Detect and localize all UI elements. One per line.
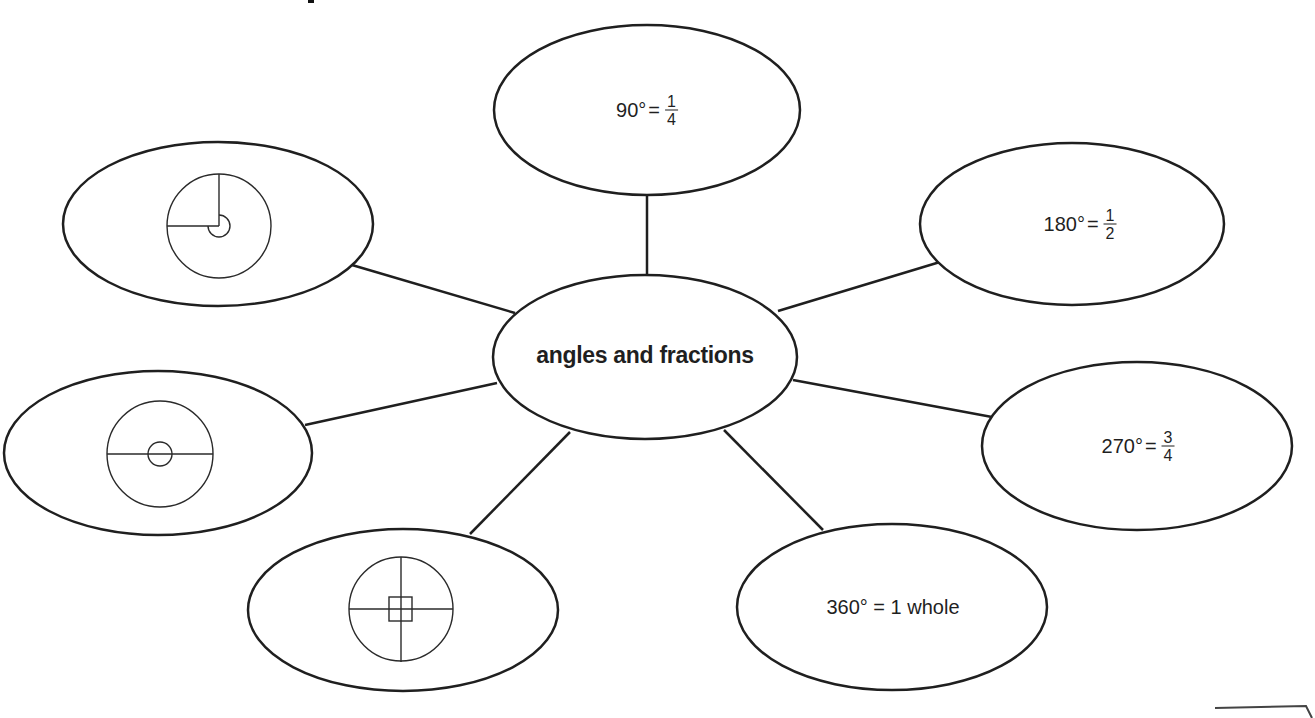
fraction-numerator: 1 [1104,207,1117,225]
node-right-label: 270° = 3 4 [1102,429,1175,464]
node-top-left-ellipse [63,142,373,306]
node-top-right-label: 180° = 1 2 [1044,207,1117,242]
degrees-text: 180° [1044,213,1085,236]
fraction-denominator: 2 [1104,225,1117,242]
fraction-denominator: 4 [665,111,678,128]
equals-sign: = [1087,213,1099,236]
corner-shape-fragment [1215,706,1312,718]
connector-bottom-left [470,432,570,534]
degrees-text: 90° [616,99,646,122]
fraction-numerator: 3 [1162,429,1175,447]
fraction-denominator: 4 [1162,447,1175,464]
full-turn-quarters-icon [349,557,453,662]
connector-left [305,383,497,425]
title-fragment [308,0,314,3]
fraction: 1 2 [1104,207,1117,242]
connector-top-left [352,265,515,313]
connector-bottom-right [724,430,823,530]
equals-sign: = [1145,435,1157,458]
fraction: 1 4 [665,93,678,128]
degrees-text: 270° [1102,435,1143,458]
node-top-label: 90° = 1 4 [616,93,678,128]
connector-top-right [778,262,940,311]
node-bottom-right-label: 360° = 1 whole [826,596,959,619]
fraction-numerator: 1 [665,93,678,111]
node-bottom-left-ellipse [248,529,558,691]
equals-sign: = [648,99,660,122]
center-label: angles and fractions [536,342,754,369]
node-left-ellipse [4,371,312,535]
fraction: 3 4 [1162,429,1175,464]
connector-right [793,380,992,417]
